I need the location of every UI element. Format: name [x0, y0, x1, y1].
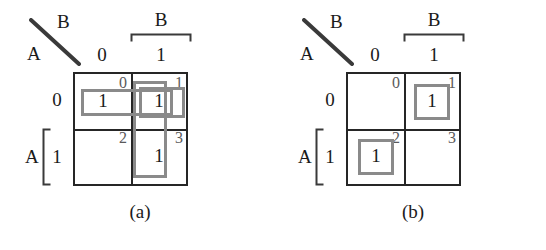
- row-label-0-b: 0: [321, 90, 339, 109]
- row-label-0-a: 0: [48, 90, 66, 109]
- kmap-cell-2-a[interactable]: 2: [75, 129, 131, 185]
- column-label-0-a: 0: [87, 45, 117, 64]
- minterm-index-2-a: 2: [119, 129, 127, 146]
- row-bracket-b: [315, 128, 324, 186]
- column-variable-label-b: B: [404, 10, 464, 29]
- panel-b: B A B 0 1 0 1 A 0 1 1 2: [273, 0, 546, 250]
- group-single-minterm1-b[interactable]: [414, 84, 450, 120]
- corner-header-b: B A: [299, 14, 357, 70]
- column-variable-label-a: B: [131, 10, 191, 29]
- group-single-minterm1-a[interactable]: [139, 87, 185, 118]
- karnaugh-map-figure: B A B 0 1 0 1 A 0 1 1 1 2: [0, 0, 546, 250]
- column-label-1-b: 1: [419, 45, 449, 64]
- kmap-cell-3-b[interactable]: 3: [404, 129, 460, 185]
- panel-caption-b: (b): [368, 202, 458, 222]
- minterm-index-3-b: 3: [448, 129, 456, 146]
- minterm-index-3-a: 3: [175, 129, 183, 146]
- corner-side-variable-b: A: [300, 44, 314, 63]
- column-bracket-b: [403, 33, 465, 42]
- panel-a: B A B 0 1 0 1 A 0 1 1 1 2: [0, 0, 273, 250]
- column-label-1-a: 1: [146, 45, 176, 64]
- row-variable-label-a: A: [25, 147, 39, 166]
- minterm-index-0-b: 0: [392, 74, 400, 91]
- kmap-grid-b: 0 1 1 2 1 3: [346, 72, 461, 186]
- corner-side-variable-a: A: [27, 44, 41, 63]
- corner-header-a: B A: [26, 14, 84, 70]
- column-bracket-a: [130, 33, 192, 42]
- kmap-cell-0-b[interactable]: 0: [348, 74, 404, 130]
- corner-top-variable-b: B: [330, 12, 343, 31]
- row-variable-label-b: A: [298, 147, 312, 166]
- row-bracket-a: [42, 128, 51, 186]
- group-single-minterm2-b[interactable]: [358, 139, 394, 175]
- panel-caption-a: (a): [95, 202, 185, 222]
- kmap-grid-a: 0 1 1 1 2 3 1: [73, 72, 188, 186]
- column-label-0-b: 0: [360, 45, 390, 64]
- corner-top-variable-a: B: [57, 12, 70, 31]
